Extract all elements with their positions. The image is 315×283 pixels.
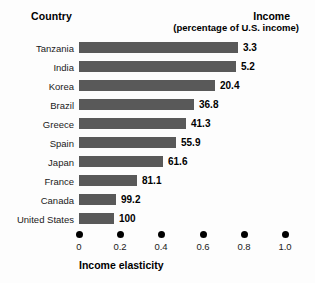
x-axis-tick-label: 0 xyxy=(69,241,89,252)
tick-dot-icon xyxy=(282,231,289,238)
bar xyxy=(79,175,137,186)
country-label: Japan xyxy=(0,155,74,174)
bar xyxy=(79,42,238,53)
bar-value-label: 61.6 xyxy=(168,155,187,168)
column-header-income-sublabel: (percentage of U.S. income) xyxy=(173,22,299,33)
chart-row: Japan61.6 xyxy=(0,155,315,174)
country-label: Korea xyxy=(0,79,74,98)
bar-value-label: 99.2 xyxy=(121,193,140,206)
x-axis-tick: 0 xyxy=(69,231,89,252)
country-label: India xyxy=(0,60,74,79)
country-label: Canada xyxy=(0,193,74,212)
chart-row: France81.1 xyxy=(0,174,315,193)
bar xyxy=(79,61,236,72)
bar-value-label: 41.3 xyxy=(191,117,210,130)
country-label: Tanzania xyxy=(0,41,74,60)
column-header-income: Income xyxy=(253,10,290,22)
bar xyxy=(79,80,215,91)
country-label: United States xyxy=(0,212,74,231)
chart-plot-area: Tanzania3.3India5.2Korea20.4Brazil36.8Gr… xyxy=(0,41,315,231)
chart-row: Greece41.3 xyxy=(0,117,315,136)
chart-row: Korea20.4 xyxy=(0,79,315,98)
chart-row: Brazil36.8 xyxy=(0,98,315,117)
bar-value-label: 55.9 xyxy=(181,136,200,149)
column-header-country: Country xyxy=(31,10,72,22)
tick-dot-icon xyxy=(117,231,124,238)
tick-dot-icon xyxy=(158,231,165,238)
bar-value-label: 20.4 xyxy=(220,79,239,92)
x-axis-tick: 1.0 xyxy=(275,231,295,252)
x-axis: Income elasticity 00.20.40.60.81.0 xyxy=(0,231,315,283)
bar xyxy=(79,137,176,148)
x-axis-tick: 0.8 xyxy=(234,231,254,252)
x-axis-tick: 0.2 xyxy=(110,231,130,252)
chart-row: Tanzania3.3 xyxy=(0,41,315,60)
chart-row: India5.2 xyxy=(0,60,315,79)
x-axis-tick-label: 0.4 xyxy=(151,241,171,252)
x-axis-tick: 0.4 xyxy=(151,231,171,252)
tick-dot-icon xyxy=(241,231,248,238)
chart-row: United States100 xyxy=(0,212,315,231)
bar-value-label: 3.3 xyxy=(243,41,257,54)
tick-dot-icon xyxy=(200,231,207,238)
chart-row: Canada99.2 xyxy=(0,193,315,212)
bar-value-label: 81.1 xyxy=(142,174,161,187)
bar xyxy=(79,156,163,167)
x-axis-tick-label: 0.8 xyxy=(234,241,254,252)
income-elasticity-chart: Country Income (percentage of U.S. incom… xyxy=(0,0,315,283)
x-axis-tick: 0.6 xyxy=(193,231,213,252)
x-axis-title: Income elasticity xyxy=(79,259,164,271)
tick-dot-icon xyxy=(76,231,83,238)
country-label: Greece xyxy=(0,117,74,136)
bar xyxy=(79,194,116,205)
x-axis-tick-label: 0.2 xyxy=(110,241,130,252)
bar-value-label: 5.2 xyxy=(241,60,255,73)
bar xyxy=(79,118,186,129)
country-label: France xyxy=(0,174,74,193)
country-label: Brazil xyxy=(0,98,74,117)
bar-value-label: 100 xyxy=(119,212,136,225)
country-label: Spain xyxy=(0,136,74,155)
bar xyxy=(79,213,114,224)
bar xyxy=(79,99,194,110)
bar-value-label: 36.8 xyxy=(199,98,218,111)
x-axis-tick-label: 0.6 xyxy=(193,241,213,252)
chart-row: Spain55.9 xyxy=(0,136,315,155)
x-axis-tick-label: 1.0 xyxy=(275,241,295,252)
